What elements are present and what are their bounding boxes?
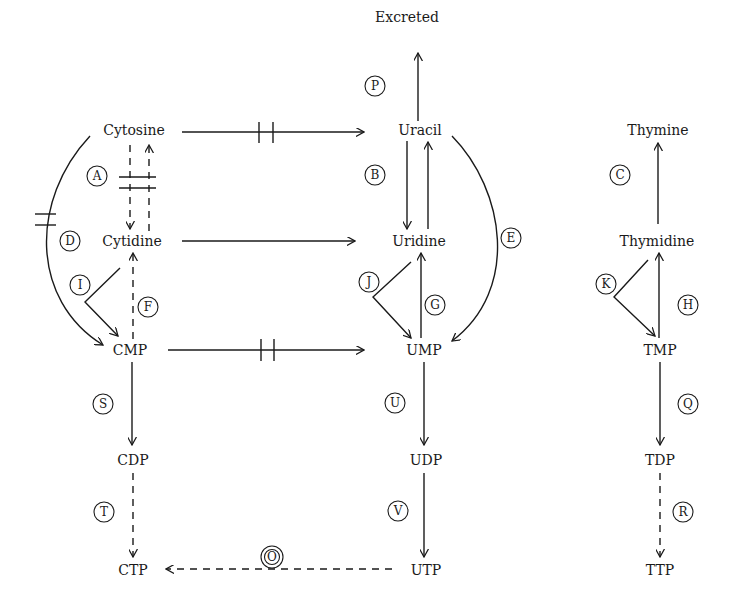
reaction-label-h: H [678,295,698,315]
reaction-label-v: V [388,501,408,521]
svg-text:A: A [92,169,102,183]
svg-text:G: G [430,298,440,312]
reaction-label-s: S [93,394,113,414]
svg-text:O: O [267,550,277,564]
reaction-label-u: U [385,393,405,413]
node-tmp: TMP [643,342,676,358]
svg-text:V: V [393,504,403,518]
node-cdp: CDP [117,452,148,468]
reaction-label-f: F [138,297,158,317]
node-cytosine: Cytosine [103,122,165,138]
edge-thymidine-tmp [614,260,655,336]
edge-uridine-ump [373,262,411,338]
reaction-label-r: R [673,502,693,522]
svg-text:I: I [78,278,83,292]
reaction-label-e: E [501,228,521,248]
reaction-label-g: G [425,295,445,315]
reaction-label-d: D [60,231,80,251]
svg-text:U: U [390,396,400,410]
node-uridine: Uridine [392,233,446,249]
svg-text:T: T [100,505,108,519]
node-uracil: Uracil [398,122,442,138]
svg-text:K: K [602,277,612,291]
node-utp: UTP [411,562,442,578]
reaction-label-o: O [261,546,283,568]
reaction-label-a: A [87,166,107,186]
node-ump: UMP [406,342,442,358]
node-thymine: Thymine [627,122,688,138]
svg-text:S: S [99,397,107,411]
pathway-diagram: Excreted Cytosine Uracil Thymine Cytidin… [0,0,732,612]
svg-text:D: D [65,234,75,248]
node-ctp: CTP [118,562,147,578]
node-tdp: TDP [645,452,675,468]
reaction-label-c: C [610,165,630,185]
svg-text:F: F [144,300,152,314]
svg-text:R: R [678,505,688,519]
svg-text:P: P [371,79,379,93]
svg-text:Q: Q [683,397,693,411]
node-udp: UDP [410,452,442,468]
reaction-label-b: B [365,165,385,185]
edge-uracil-ump [452,136,498,341]
svg-text:J: J [365,275,372,289]
edge-cytidine-cmp [85,268,120,336]
node-thymidine: Thymidine [620,233,695,249]
reaction-label-j: J [359,272,379,292]
reaction-label-i: I [70,275,90,295]
node-ttp: TTP [646,562,674,578]
svg-text:E: E [507,231,516,245]
svg-text:H: H [683,298,693,312]
svg-text:B: B [371,168,380,182]
node-excreted: Excreted [375,9,439,25]
reaction-label-k: K [596,274,616,294]
reaction-label-q: Q [678,394,698,414]
svg-text:C: C [615,168,624,182]
node-cytidine: Cytidine [102,233,161,249]
node-cmp: CMP [113,342,147,358]
reaction-label-t: T [94,502,114,522]
reaction-label-p: P [365,76,385,96]
